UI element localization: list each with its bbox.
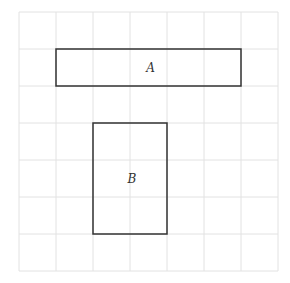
grid-lines bbox=[19, 12, 278, 271]
grid-diagram: A B bbox=[0, 0, 290, 283]
rectangle-a-label: A bbox=[145, 61, 155, 75]
rectangle-a: A bbox=[56, 49, 241, 86]
rectangles: A B bbox=[56, 49, 241, 234]
rectangle-b-label: B bbox=[127, 172, 137, 186]
